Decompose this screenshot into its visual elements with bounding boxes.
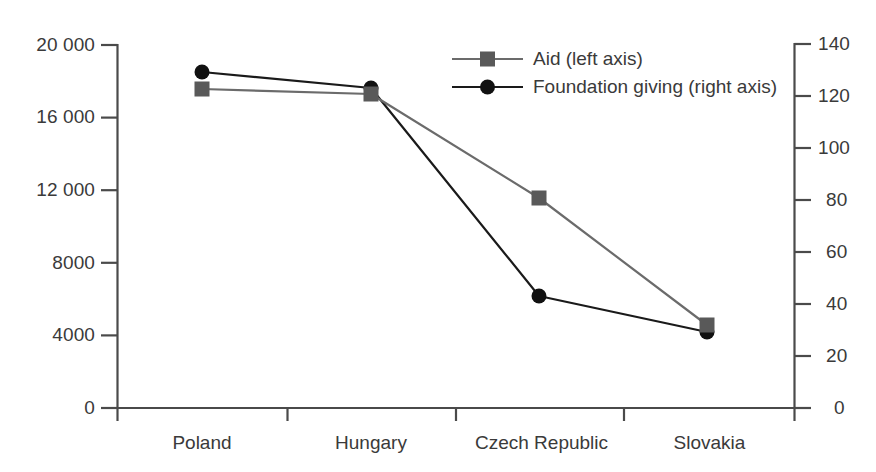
right-axis-label-20: 20 [826,345,876,367]
aid-point-slovakia [700,318,715,333]
legend-circle-marker-icon [480,80,495,95]
aid-point-hungary [364,87,379,102]
right-axis-label-60: 60 [826,241,876,263]
left-axis-label-4000: 4000 [0,324,95,346]
left-axis-label-0: 0 [0,397,95,419]
series-aid [195,82,715,333]
legend-swatch-foundation-giving [452,80,523,95]
right-axis-label-120: 120 [818,85,876,107]
right-axis [795,43,812,409]
right-axis-label-100: 100 [818,137,876,159]
legend-swatch-aid [452,52,523,67]
x-axis-label-czech-republic: Czech Republic [459,432,624,454]
right-axis-label-40: 40 [826,293,876,315]
right-axis-label-0: 0 [834,397,876,419]
foundation-giving-point-czech-republic [532,289,547,304]
x-axis-label-poland: Poland [122,432,282,454]
left-axis-label-12000: 12 000 [0,179,95,201]
chart-container: 20 000 16 000 12 000 8000 4000 0 140 120… [0,0,876,472]
left-axis [101,44,118,409]
legend-label-foundation-giving: Foundation giving (right axis) [533,76,777,98]
aid-point-poland [195,82,210,97]
right-axis-label-80: 80 [826,189,876,211]
x-axis [108,408,804,421]
legend [452,52,523,95]
series-foundation-giving [195,65,715,340]
left-axis-label-8000: 8000 [0,252,95,274]
legend-label-aid: Aid (left axis) [533,48,643,70]
foundation-giving-line [202,72,707,332]
x-axis-label-hungary: Hungary [291,432,451,454]
left-axis-label-16000: 16 000 [0,106,95,128]
aid-line [202,89,707,325]
right-axis-label-140: 140 [818,33,876,55]
aid-point-czech-republic [532,191,547,206]
legend-square-marker-icon [480,52,495,67]
left-axis-label-20000: 20 000 [0,34,95,56]
chart-plot-area [0,0,876,472]
foundation-giving-point-poland [195,65,210,80]
x-axis-label-slovakia: Slovakia [627,432,792,454]
